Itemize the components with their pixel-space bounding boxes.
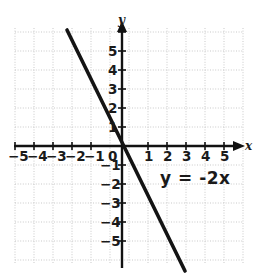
y-tick-label-neg4: −4 <box>100 216 121 230</box>
x-tick-label-4: 4 <box>201 150 210 164</box>
x-tick-label-3: 3 <box>182 150 191 164</box>
x-tick-label-neg3: −3 <box>46 150 67 164</box>
y-tick-label-1: 1 <box>108 121 117 135</box>
y-axis-name-label: y <box>118 14 125 26</box>
x-tick-label-neg4: −4 <box>27 150 48 164</box>
graph-canvas <box>0 0 258 277</box>
x-axis-name-label: x <box>245 140 252 152</box>
y-tick-label-neg5: −5 <box>100 235 121 249</box>
y-tick-label-neg1: −1 <box>100 159 121 173</box>
coordinate-plane-figure: −5 −4 −3 −2 −1 0 1 2 3 4 5 1 2 3 4 5 −1 … <box>0 0 258 277</box>
y-tick-label-3: 3 <box>108 83 117 97</box>
x-tick-label-neg5: −5 <box>8 150 29 164</box>
y-tick-label-5: 5 <box>108 45 117 59</box>
y-tick-label-neg2: −2 <box>100 178 121 192</box>
y-tick-label-2: 2 <box>108 102 117 116</box>
x-tick-label-neg2: −2 <box>65 150 86 164</box>
y-tick-label-neg3: −3 <box>100 197 121 211</box>
x-tick-label-5: 5 <box>220 150 229 164</box>
equation-annotation: y = -2x <box>160 168 231 188</box>
y-tick-label-4: 4 <box>108 64 117 78</box>
x-tick-label-1: 1 <box>144 150 153 164</box>
x-tick-label-2: 2 <box>163 150 172 164</box>
